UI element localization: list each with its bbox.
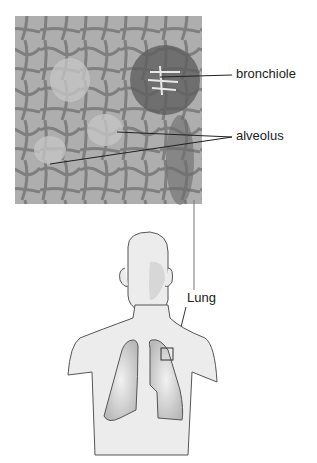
- bronchiole-label: bronchiole: [236, 66, 296, 81]
- lung-label: Lung: [187, 290, 216, 305]
- lung-tissue-micrograph: [15, 16, 202, 205]
- alveolus-label: alveolus: [236, 128, 284, 143]
- human-torso-figure: [68, 232, 217, 455]
